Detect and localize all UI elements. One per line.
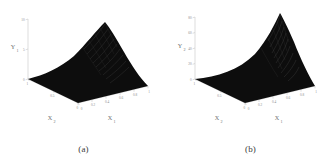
x-axis-label-sub-b: 1 bbox=[280, 119, 282, 124]
z-tick-2-a: 10 bbox=[21, 18, 25, 22]
caption-b: (b) bbox=[167, 144, 334, 154]
x-tick-2-b: 0.4 bbox=[272, 100, 277, 104]
z-axis-label-a: Y bbox=[11, 43, 16, 50]
y-axis-label-sub-a: 2 bbox=[53, 119, 55, 124]
z-axis-label-b: Y bbox=[178, 42, 183, 49]
y-tick-0-b: 0 bbox=[244, 106, 246, 110]
surface-svg-b: 0 20 40 60 80 0 0.5 1 bbox=[167, 0, 334, 132]
y-tick-1-b: 0.5 bbox=[217, 94, 222, 98]
x-tick-4-a: 0.8 bbox=[133, 93, 138, 97]
z-tick-0-a: 0 bbox=[23, 78, 25, 82]
z-axis-label-sub-b: 2 bbox=[183, 47, 185, 52]
z-tick-4-b: 80 bbox=[188, 16, 192, 20]
x-tick-4-b: 0.8 bbox=[300, 93, 305, 97]
x-tick-0-a: 0 bbox=[81, 107, 83, 111]
mesh-surface-b bbox=[195, 13, 315, 103]
surface-plot-b: 0 20 40 60 80 0 0.5 1 bbox=[167, 0, 334, 132]
x-axis-label-sub-a: 1 bbox=[113, 119, 115, 124]
x-tick-3-a: 0.6 bbox=[119, 96, 124, 100]
surface-plot-a: 0 5 10 0 0.5 1 bbox=[0, 0, 167, 132]
z-axis-ticks-b: 0 20 40 60 80 bbox=[188, 16, 195, 82]
z-tick-3-b: 60 bbox=[188, 31, 192, 35]
z-tick-0-b: 0 bbox=[190, 78, 192, 82]
y-tick-2-a: 1 bbox=[27, 82, 29, 86]
y-axis-label-b: X bbox=[215, 114, 220, 121]
y-axis-label-sub-b: 2 bbox=[220, 119, 222, 124]
x-tick-2-a: 0.4 bbox=[105, 100, 110, 104]
y-tick-2-b: 1 bbox=[194, 82, 196, 86]
subfigure-b: 0 20 40 60 80 0 0.5 1 bbox=[167, 0, 334, 156]
x-tick-5-a: 1 bbox=[148, 90, 150, 94]
z-axis-ticks-a: 0 5 10 bbox=[21, 18, 28, 82]
x-tick-5-b: 1 bbox=[315, 90, 317, 94]
x-axis-label-a: X bbox=[108, 114, 113, 121]
z-tick-2-b: 40 bbox=[188, 47, 192, 51]
y-axis-label-a: X bbox=[48, 114, 53, 121]
surface-svg-a: 0 5 10 0 0.5 1 bbox=[0, 0, 167, 132]
figure-container: 0 5 10 0 0.5 1 bbox=[0, 0, 334, 156]
caption-a: (a) bbox=[0, 144, 167, 154]
x-tick-0-b: 0 bbox=[248, 107, 250, 111]
y-tick-0-a: 0 bbox=[77, 106, 79, 110]
y-tick-1-a: 0.5 bbox=[50, 94, 55, 98]
x-tick-1-b: 0.2 bbox=[258, 103, 263, 107]
z-axis-label-sub-a: 1 bbox=[16, 48, 18, 53]
mesh-surface-a bbox=[28, 22, 148, 103]
subfigure-a: 0 5 10 0 0.5 1 bbox=[0, 0, 167, 156]
z-tick-1-b: 20 bbox=[188, 62, 192, 66]
x-axis-label-b: X bbox=[275, 114, 280, 121]
z-tick-1-a: 5 bbox=[23, 48, 25, 52]
x-tick-3-b: 0.6 bbox=[286, 96, 291, 100]
x-tick-1-a: 0.2 bbox=[91, 103, 96, 107]
